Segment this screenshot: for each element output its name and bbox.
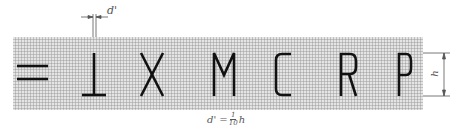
grid-background	[13, 37, 423, 110]
height-label: h	[429, 70, 440, 76]
formula-denominator: 10	[229, 120, 238, 127]
formula-fraction: 1 10	[229, 112, 238, 127]
formula-suffix: h	[239, 114, 245, 125]
formula-prefix: d' =	[207, 114, 228, 125]
formula: d' = 1 10 h	[207, 112, 245, 127]
stroke-width-label: d'	[107, 4, 117, 17]
stroke-width-dimension	[81, 14, 108, 37]
